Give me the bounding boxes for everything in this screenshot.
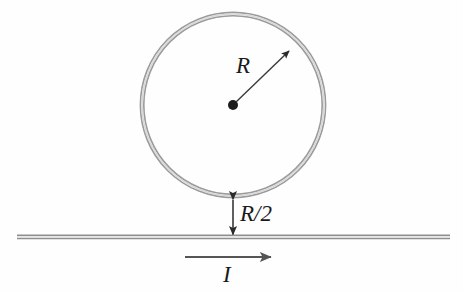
radius-label: R xyxy=(236,54,250,77)
physics-diagram-figure: R R/2 I xyxy=(0,0,463,294)
separation-label: R/2 xyxy=(240,202,272,225)
diagram-canvas xyxy=(0,0,463,294)
current-wire xyxy=(17,235,450,238)
current-label: I xyxy=(223,263,231,286)
